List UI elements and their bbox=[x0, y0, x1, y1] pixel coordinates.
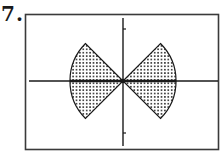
origin-point bbox=[121, 79, 125, 83]
calculator-graph-screen bbox=[0, 0, 224, 155]
